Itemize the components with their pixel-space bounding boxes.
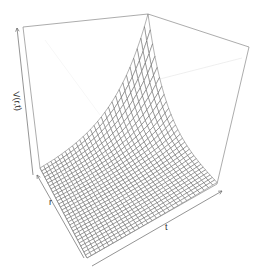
z-axis-label: V(r,t) [11,91,24,112]
surface-mesh [40,14,217,258]
surface-plot: V(r,t) r t [0,0,262,268]
x-axis-label: r [49,197,52,207]
y-axis-label: t [165,222,168,232]
